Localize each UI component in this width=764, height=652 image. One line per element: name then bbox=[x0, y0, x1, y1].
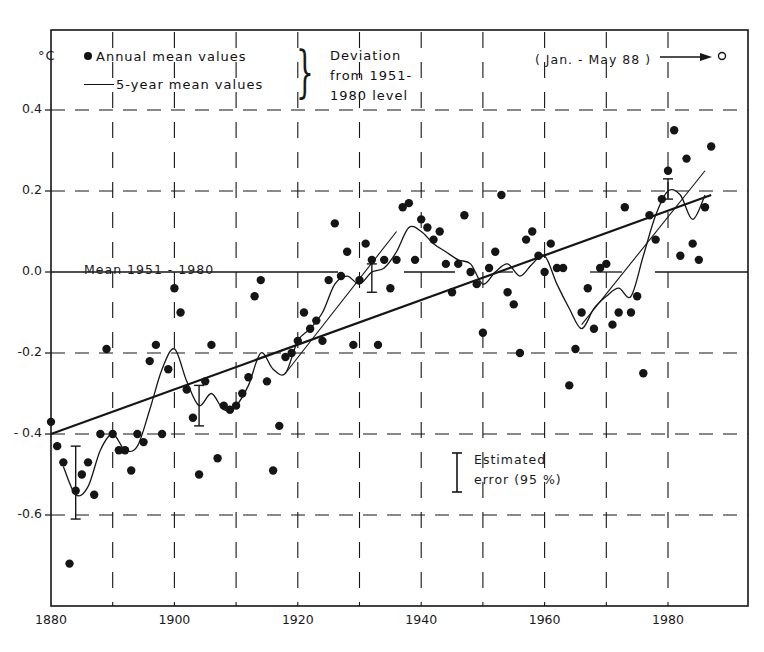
legend: Annual mean values 5-year mean values bbox=[84, 42, 263, 98]
annual-point bbox=[380, 256, 388, 264]
annual-point bbox=[78, 470, 86, 478]
annual-point bbox=[522, 235, 530, 243]
deviation-note: Deviation from 1951- 1980 level bbox=[330, 46, 412, 106]
annual-point bbox=[306, 325, 314, 333]
legend-5yr: 5-year mean values bbox=[84, 70, 263, 98]
annual-point bbox=[565, 381, 573, 389]
annual-point bbox=[139, 438, 147, 446]
annual-point bbox=[540, 268, 548, 276]
annual-point bbox=[571, 345, 579, 353]
annual-point bbox=[349, 341, 357, 349]
annual-point bbox=[189, 414, 197, 422]
legend-annual-label: Annual mean values bbox=[96, 49, 247, 64]
x-tick-label: 1880 bbox=[26, 612, 76, 627]
annual-point bbox=[183, 385, 191, 393]
annual-point bbox=[423, 223, 431, 231]
annual-point bbox=[485, 264, 493, 272]
annual-point bbox=[670, 126, 678, 134]
annual-point bbox=[417, 215, 425, 223]
annual-point bbox=[90, 491, 98, 499]
annual-point bbox=[466, 268, 474, 276]
annual-point bbox=[510, 300, 518, 308]
annual-point bbox=[448, 288, 456, 296]
annual-point bbox=[577, 308, 585, 316]
annual-point bbox=[491, 248, 499, 256]
annual-point bbox=[368, 256, 376, 264]
annual-point bbox=[633, 292, 641, 300]
annual-point bbox=[47, 418, 55, 426]
annual-point bbox=[411, 256, 419, 264]
annual-point bbox=[102, 345, 110, 353]
annual-point bbox=[170, 284, 178, 292]
annual-point bbox=[405, 199, 413, 207]
annual-point bbox=[707, 142, 715, 150]
annual-point bbox=[528, 227, 536, 235]
line-marker-icon bbox=[84, 84, 114, 85]
annual-point bbox=[355, 276, 363, 284]
annual-point bbox=[164, 365, 172, 373]
annual-point bbox=[559, 264, 567, 272]
annual-point bbox=[645, 211, 653, 219]
annual-point bbox=[232, 401, 240, 409]
annual-point bbox=[59, 458, 67, 466]
annual-point bbox=[547, 239, 555, 247]
annual-point bbox=[664, 167, 672, 175]
y-unit-label: °C bbox=[38, 48, 56, 63]
annual-point bbox=[287, 349, 295, 357]
annual-point bbox=[701, 203, 709, 211]
annual-point bbox=[337, 272, 345, 280]
annual-point bbox=[534, 252, 542, 260]
annual-point bbox=[146, 357, 154, 365]
deviation-line-3: 1980 level bbox=[330, 86, 412, 106]
annual-point bbox=[374, 341, 382, 349]
jan-may-note: ( Jan. - May 88 ) bbox=[535, 52, 651, 67]
annual-point bbox=[602, 260, 610, 268]
legend-annual: Annual mean values bbox=[84, 42, 263, 70]
annual-point bbox=[454, 260, 462, 268]
annual-point bbox=[133, 430, 141, 438]
annual-point bbox=[207, 341, 215, 349]
annual-point bbox=[109, 430, 117, 438]
annual-point bbox=[436, 227, 444, 235]
annual-point bbox=[442, 260, 450, 268]
deviation-line-1: Deviation bbox=[330, 46, 412, 66]
deviation-line-2: from 1951- bbox=[330, 66, 412, 86]
x-tick-label: 1940 bbox=[396, 612, 446, 627]
brace-icon: } bbox=[296, 44, 314, 100]
annual-point bbox=[263, 377, 271, 385]
annual-point bbox=[651, 235, 659, 243]
annual-point bbox=[682, 154, 690, 162]
error-label-1: Estimated bbox=[474, 452, 546, 467]
annual-point bbox=[312, 316, 320, 324]
annual-point bbox=[250, 292, 258, 300]
annual-point bbox=[429, 235, 437, 243]
y-tick-label: 0.0 bbox=[2, 263, 42, 278]
annual-point bbox=[392, 256, 400, 264]
five-year-mean-curve bbox=[63, 189, 705, 495]
error-label-2: error (95 %) bbox=[474, 472, 562, 487]
y-tick-label: -0.6 bbox=[2, 506, 42, 521]
annual-point bbox=[158, 430, 166, 438]
annual-point bbox=[473, 280, 481, 288]
annual-point bbox=[497, 191, 505, 199]
annual-point bbox=[343, 248, 351, 256]
annual-point bbox=[84, 458, 92, 466]
trend-line bbox=[51, 195, 711, 434]
annual-point bbox=[614, 308, 622, 316]
annual-point bbox=[324, 276, 332, 284]
annual-point bbox=[361, 239, 369, 247]
annual-point bbox=[195, 470, 203, 478]
annual-point bbox=[639, 369, 647, 377]
legend-5yr-label: 5-year mean values bbox=[116, 77, 263, 92]
annual-point bbox=[627, 308, 635, 316]
annual-point bbox=[152, 341, 160, 349]
annual-point bbox=[516, 349, 524, 357]
x-tick-label: 1980 bbox=[643, 612, 693, 627]
y-tick-label: 0.4 bbox=[2, 101, 42, 116]
plot-frame bbox=[51, 30, 748, 606]
annual-point bbox=[238, 389, 246, 397]
annual-point bbox=[676, 252, 684, 260]
annual-point bbox=[503, 288, 511, 296]
annual-point bbox=[300, 308, 308, 316]
annual-point bbox=[460, 211, 468, 219]
